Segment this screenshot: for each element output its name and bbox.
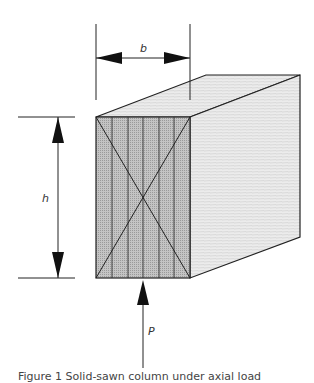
- width-label: b: [140, 42, 147, 55]
- arrowhead-right-icon: [164, 52, 190, 64]
- load-arrowhead-icon: [137, 280, 149, 305]
- arrowhead-down-icon: [52, 252, 64, 278]
- arrowhead-up-icon: [52, 117, 64, 143]
- figure-caption: Figure 1 Solid-sawn column under axial l…: [18, 370, 261, 383]
- height-label: h: [42, 192, 49, 205]
- arrowhead-left-icon: [96, 52, 122, 64]
- load-label: P: [148, 325, 155, 338]
